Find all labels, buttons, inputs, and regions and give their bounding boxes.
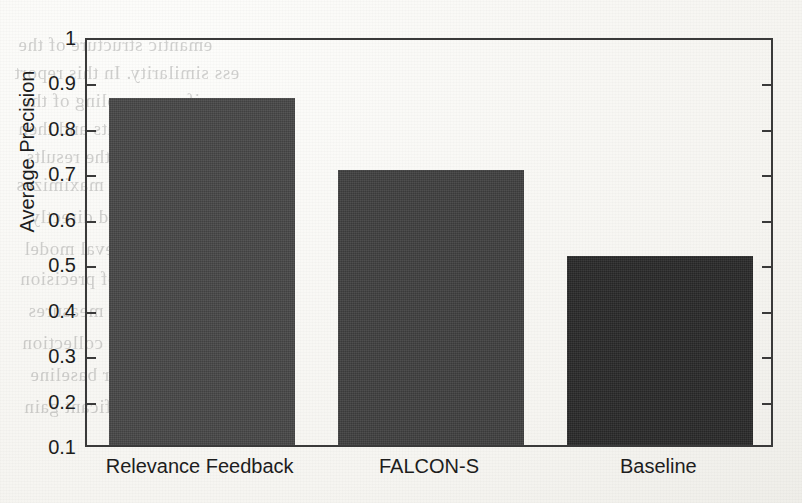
bar xyxy=(567,256,753,445)
y-tick-label: 0.2 xyxy=(48,392,76,412)
x-tick-label: FALCON-S xyxy=(314,455,543,478)
y-tick-label: 0.6 xyxy=(48,210,76,230)
bar-texture xyxy=(109,98,295,445)
x-tick-label: Relevance Feedback xyxy=(85,455,314,478)
y-axis-title: Average Precision xyxy=(16,37,39,267)
bar xyxy=(109,98,295,445)
bar-texture xyxy=(338,170,524,445)
y-tick-label: 0.9 xyxy=(48,73,76,93)
y-tick-label: 0.7 xyxy=(48,164,76,184)
y-tick-label: 0.8 xyxy=(48,119,76,139)
y-tick-label: 0.5 xyxy=(48,255,76,275)
y-tick-label: 0.4 xyxy=(48,301,76,321)
chart-page: emantic structure of theess similarity. … xyxy=(0,0,802,503)
bar xyxy=(338,170,524,445)
y-tick-label: 1 xyxy=(65,28,76,48)
y-tick-label: 0.3 xyxy=(48,346,76,366)
plot-area xyxy=(85,38,773,447)
bar-group xyxy=(87,40,771,445)
x-tick-label: Baseline xyxy=(544,455,773,478)
y-tick-label: 0.1 xyxy=(48,437,76,457)
bar-texture xyxy=(567,256,753,445)
